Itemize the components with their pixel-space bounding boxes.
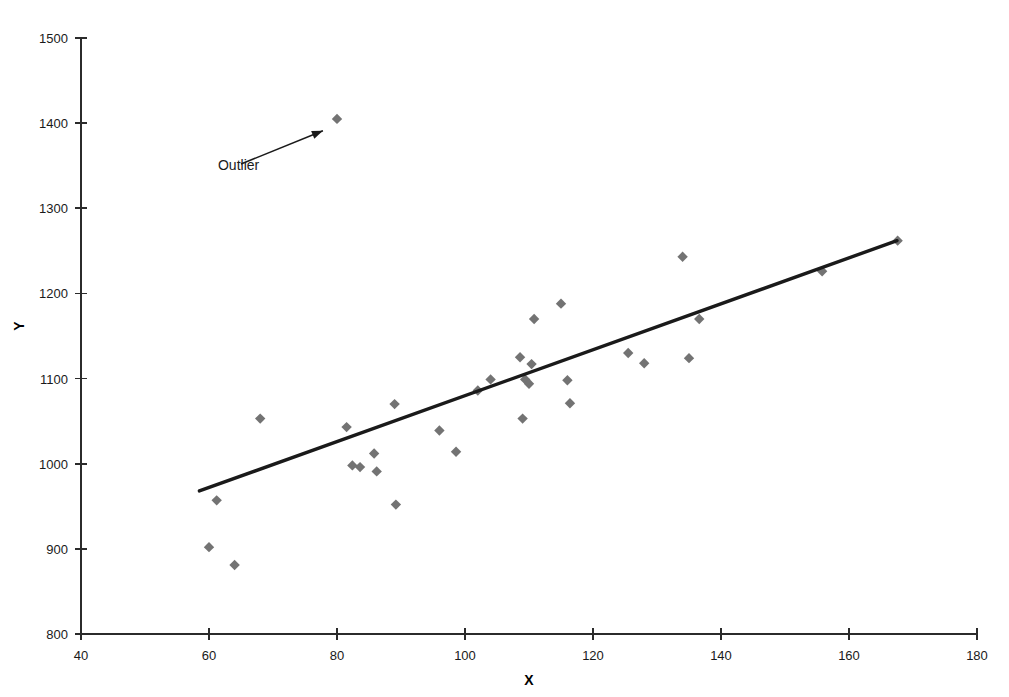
data-point-marker — [565, 398, 575, 408]
y-axis-tick-label: 1300 — [39, 201, 68, 216]
y-axis-tick-label: 1500 — [39, 31, 68, 46]
x-axis-title: X — [524, 672, 534, 688]
data-point-marker — [562, 375, 572, 385]
data-point-marker — [434, 425, 444, 435]
x-axis-tick-label: 40 — [74, 648, 88, 663]
data-point-marker — [639, 358, 649, 368]
data-point-marker — [229, 560, 239, 570]
x-axis-tick-label: 140 — [710, 648, 732, 663]
y-axis-tick-label: 1000 — [39, 457, 68, 472]
data-point-marker — [451, 447, 461, 457]
data-point-marker — [355, 462, 365, 472]
data-point-marker — [255, 413, 265, 423]
data-point-marker — [371, 466, 381, 476]
y-axis-tick-label: 900 — [46, 542, 68, 557]
x-axis-tick-label: 80 — [330, 648, 344, 663]
y-axis-title: Y — [11, 321, 27, 331]
y-axis-tick-label: 1100 — [40, 372, 68, 387]
scatter-plot-figure: 800900100011001200130014001500 406080100… — [0, 0, 1009, 697]
data-point-marker — [517, 413, 527, 423]
data-point-marker — [211, 495, 221, 505]
data-point-marker — [677, 252, 687, 262]
y-axis-tick-label: 1400 — [39, 116, 68, 131]
annotation-arrow-shaft — [241, 131, 323, 164]
x-axis-tick-label: 100 — [454, 648, 476, 663]
data-point-marker — [684, 353, 694, 363]
data-point-marker — [515, 352, 525, 362]
y-axis-tick-label: 800 — [46, 627, 68, 642]
annotation-arrow-head — [311, 131, 323, 139]
x-axis-tick-label: 160 — [838, 648, 860, 663]
x-axis-tick-label: 60 — [202, 648, 216, 663]
x-axis-tick-label: 180 — [966, 648, 988, 663]
data-point-marker — [526, 359, 536, 369]
data-point-marker — [556, 298, 566, 308]
x-axis-tick-label: 120 — [582, 648, 604, 663]
data-point-marker — [369, 448, 379, 458]
y-axis-tick-group: 800900100011001200130014001500 — [39, 31, 87, 642]
data-point-marker — [389, 399, 399, 409]
data-point-marker — [204, 542, 214, 552]
trend-line — [199, 241, 897, 491]
data-point-marker — [332, 114, 342, 124]
data-point-marker — [485, 374, 495, 384]
data-point-marker — [341, 422, 351, 432]
data-point-group — [204, 114, 903, 571]
data-point-marker — [391, 499, 401, 509]
data-point-marker — [694, 314, 704, 324]
data-point-marker — [529, 314, 539, 324]
data-point-marker — [623, 348, 633, 358]
y-axis-tick-label: 1200 — [39, 286, 68, 301]
plot-canvas: 800900100011001200130014001500 406080100… — [0, 0, 1009, 697]
annotation-group: Outlier — [218, 131, 323, 173]
data-point-marker — [347, 460, 357, 470]
